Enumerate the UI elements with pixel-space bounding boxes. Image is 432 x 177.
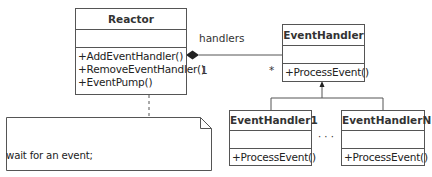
class-operations: +ProcessEvent(): [283, 64, 364, 79]
class-name: EventHandlerN: [342, 111, 424, 131]
class-event-handler-1[interactable]: EventHandler1 +ProcessEvent(): [229, 110, 312, 166]
note-line: wait for an event;: [6, 149, 233, 163]
class-name: Reactor: [76, 9, 186, 30]
class-attributes: [342, 131, 424, 149]
class-operations: +ProcessEvent(): [230, 149, 311, 164]
subclass-ellipsis: · · ·: [318, 131, 334, 142]
class-name: EventHandler: [283, 25, 364, 46]
target-multiplicity: *: [269, 64, 274, 76]
composition-diamond-icon: [186, 51, 199, 60]
operation: +AddEventHandler(): [78, 50, 186, 63]
class-event-handler-n[interactable]: EventHandlerN +ProcessEvent(): [341, 110, 425, 166]
class-operations: +ProcessEvent(): [342, 149, 424, 164]
generalization-branch: [271, 98, 383, 110]
association-role-label: handlers: [199, 32, 245, 44]
class-event-handler[interactable]: EventHandler +ProcessEvent(): [282, 24, 365, 82]
source-multiplicity: 1: [201, 64, 208, 76]
operation: +ProcessEvent(): [232, 151, 311, 164]
class-name: EventHandler1: [230, 111, 311, 131]
class-attributes: [76, 30, 186, 48]
operation: +EventPump(): [78, 76, 186, 89]
operation: +ProcessEvent(): [344, 151, 424, 164]
class-attributes: [230, 131, 311, 149]
note-text: wait for an event; for each handler regi…: [6, 121, 233, 177]
operation: +RemoveEventHandler(): [78, 63, 186, 76]
class-attributes: [283, 46, 364, 64]
class-operations: +AddEventHandler() +RemoveEventHandler()…: [76, 48, 186, 89]
operation: +ProcessEvent(): [285, 66, 364, 79]
class-reactor[interactable]: Reactor +AddEventHandler() +RemoveEventH…: [75, 8, 187, 95]
